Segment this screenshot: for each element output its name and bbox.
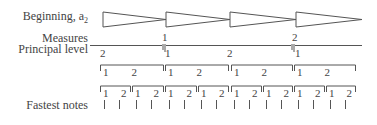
level3-bracket-beat-2: 2 — [252, 87, 258, 99]
measure-number: 2 — [292, 31, 298, 43]
level3-bracket-beat-2: 2 — [315, 87, 321, 99]
level2-bracket-beat-1: 1 — [234, 66, 240, 78]
diagram-svg: 122121121212121212121212121212 — [0, 0, 377, 125]
level2-bracket-beat-1: 1 — [103, 66, 109, 78]
beginning-wedge — [103, 12, 166, 27]
level3-bracket-beat-1: 1 — [201, 87, 207, 99]
level3-bracket-beat-1: 1 — [234, 87, 240, 99]
level2-bracket-beat-2: 2 — [262, 66, 268, 78]
level3-bracket-beat-1: 1 — [329, 87, 335, 99]
level3-bracket-beat-2: 2 — [219, 87, 225, 99]
metric-hierarchy-diagram: Beginning, a2 Measures Principal level F… — [0, 0, 377, 125]
level3-bracket-beat-2: 2 — [284, 87, 290, 99]
level2-bracket-beat-2: 2 — [132, 66, 138, 78]
beginning-wedge — [166, 12, 230, 27]
level2-bracket-beat-2: 2 — [325, 66, 331, 78]
level3-bracket-beat-1: 1 — [135, 87, 141, 99]
principal-number: 2 — [227, 47, 233, 59]
level3-bracket-beat-2: 2 — [121, 87, 127, 99]
principal-number: 1 — [295, 47, 301, 59]
level3-bracket-beat-1: 1 — [168, 87, 174, 99]
measure-number: 1 — [162, 31, 168, 43]
beginning-wedge — [296, 12, 362, 27]
level3-bracket-beat-2: 2 — [154, 87, 160, 99]
level3-bracket-beat-2: 2 — [347, 87, 353, 99]
level2-bracket-beat-2: 2 — [197, 66, 203, 78]
level3-bracket-beat-1: 1 — [297, 87, 303, 99]
level3-bracket-beat-1: 1 — [103, 87, 109, 99]
principal-number: 1 — [165, 47, 171, 59]
principal-number: 2 — [100, 47, 106, 59]
level2-bracket-beat-1: 1 — [297, 66, 303, 78]
level3-bracket-beat-2: 2 — [187, 87, 193, 99]
level2-bracket-beat-1: 1 — [168, 66, 174, 78]
beginning-wedge — [230, 12, 296, 27]
level3-bracket-beat-1: 1 — [266, 87, 272, 99]
